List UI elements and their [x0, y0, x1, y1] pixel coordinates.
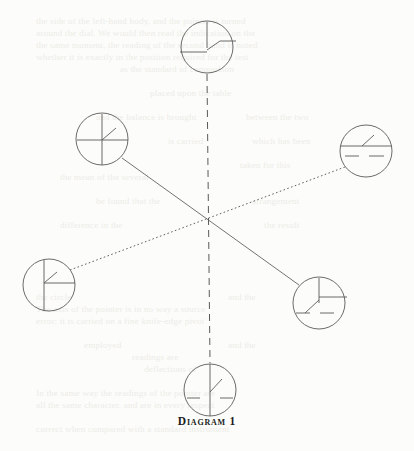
node-upper-left	[76, 113, 128, 165]
node-top	[180, 21, 236, 73]
node-lower-left	[23, 259, 75, 311]
figure-caption: Diagram 1	[0, 415, 414, 427]
node-lower-right-diagonal-stroke-lower-left	[305, 300, 319, 313]
node-lower-left-outline	[23, 259, 75, 311]
node-lower-right	[293, 277, 347, 329]
node-top-diagonal-stroke-upper-right	[207, 41, 220, 50]
node-right-outline	[340, 125, 392, 177]
connectors-group	[70, 74, 345, 363]
node-bottom	[184, 364, 236, 416]
diagram-figure	[0, 0, 414, 451]
node-upper-left-diagonal-stroke-upper-right	[102, 128, 116, 140]
node-right	[340, 125, 392, 177]
node-right-diagonal-stroke-upper-right	[362, 135, 374, 146]
connector-dotted-diagonal	[70, 167, 345, 270]
node-lower-left-diagonal-stroke-upper-right	[44, 272, 57, 283]
node-bottom-diagonal-stroke-upper-right	[210, 379, 222, 392]
connector-vertical-dashed	[207, 74, 210, 363]
page-canvas: the side of the left-hand body, and the …	[0, 0, 414, 451]
connector-solid-diagonal	[122, 158, 299, 285]
